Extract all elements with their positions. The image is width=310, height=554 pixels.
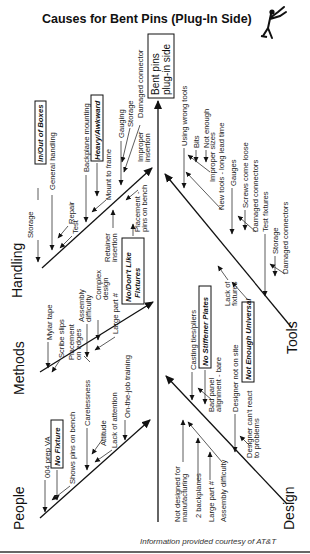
cause-storage: Storage xyxy=(26,211,35,238)
branch-tools: Tools Using wrong tools Bits Not enough … xyxy=(165,85,300,382)
cause-test-fixtures: Test fixtures xyxy=(261,191,270,232)
cause-damaged-connector: Damaged connector xyxy=(136,49,145,118)
cause-design: design xyxy=(101,278,110,300)
cause-improper-sizes: Improper sizes xyxy=(208,132,217,182)
cause-lack-of-attention: Lack of attention xyxy=(110,392,119,448)
category-design: Design xyxy=(281,486,297,530)
cause-scribe-slips: Scribe slips xyxy=(57,319,66,358)
boxed-fixtures: Fixtures xyxy=(133,267,142,298)
branch-design: Design Casting ties/pliers No Stiffener … xyxy=(166,286,297,530)
cause-using-wrong-tools: Using wrong tools xyxy=(180,85,189,146)
cause-gauging: Gauging xyxy=(117,109,126,138)
boxed-no-fixture: No Fixture xyxy=(53,427,62,466)
cause-bits: Bits xyxy=(192,135,201,148)
cause-damaged-connectors-2: Damaged connectors xyxy=(281,202,290,274)
cause-insertion: insertion xyxy=(143,133,152,162)
effect-box: Bent pins plug-in side xyxy=(148,34,174,98)
cause-to-problems: to problems xyxy=(252,418,261,458)
cause-storage-tools: Storage xyxy=(271,227,280,254)
cause-designer-not-on-site: Designer not on site xyxy=(231,344,240,412)
cause-shows-pins-on-bench: Shows pins on bench xyxy=(68,412,77,484)
boxed-in-out-of-boxes: In/Out of Boxes xyxy=(36,104,45,162)
running-figure-logo-icon xyxy=(261,7,286,38)
cause-damaged-connectors: Damaged connectors xyxy=(251,160,260,232)
boxed-heavy-awkward: Heavy/Awkward xyxy=(93,100,102,160)
diagram-title: Causes for Bent Pins (Plug-In Side) xyxy=(42,12,252,26)
cause-retainer-insertion: insertion xyxy=(110,233,119,262)
cause-test: Test xyxy=(71,219,80,234)
cause-difficulty: difficulty xyxy=(84,295,93,322)
cause-on-edges: on edges xyxy=(74,329,83,360)
boxed-no-dont-like: No/Don't Like xyxy=(124,251,133,302)
cause-manufacturing: manufacturing xyxy=(180,474,189,522)
cause-on-the-job-training: On-the-job training xyxy=(123,355,132,418)
effect-line-2: plug-in side xyxy=(161,43,172,95)
category-tools: Tools xyxy=(284,321,300,354)
cause-alignment-bare: alignment - bare xyxy=(214,357,223,412)
branch-people: People 004 prep VA No Fixture Shows pins… xyxy=(11,355,150,530)
cause-casting-ties-pliers: Casting ties/pliers xyxy=(189,310,198,370)
cause-2-backplanes: 2 backplanes xyxy=(194,473,203,518)
cause-backplane-mounting: Backplane mounting xyxy=(82,103,91,172)
cause-screws-come-loose: Screws come loose xyxy=(241,142,250,208)
cause-mylar-tape: Mylar tape xyxy=(45,305,54,340)
category-handling: Handling xyxy=(9,243,25,298)
cause-storage-2: Storage xyxy=(126,100,135,127)
effect-line-1: Bent pins xyxy=(150,53,161,95)
cause-pins-on-bench: pins on bench xyxy=(140,185,149,232)
fishbone-diagram: Causes for Bent Pins (Plug-In Side) Bent… xyxy=(0,0,310,554)
boxed-no-stiffener-plates: No Stiffener Plates xyxy=(201,296,210,366)
cause-large-part: Large part # xyxy=(111,292,120,334)
branch-handling: Handling Storage In/Out of Boxes General… xyxy=(9,49,152,304)
credit-text: Information provided courtesy of AT&T xyxy=(140,537,277,546)
cause-assembly-difficulty-design: Assembly difficulty xyxy=(219,459,228,522)
boxed-not-enough-universal: Not Enough Universal xyxy=(244,298,253,380)
category-people: People xyxy=(11,486,27,530)
cause-large-part-design: Large part # xyxy=(207,480,216,522)
category-methods: Methods xyxy=(11,341,27,395)
cause-mount-to-frame: Mount to frame xyxy=(104,149,113,200)
cause-gauges: Gauges xyxy=(229,159,238,186)
diagram-canvas: Causes for Bent Pins (Plug-In Side) Bent… xyxy=(0,0,310,554)
cause-general-handling: General handling xyxy=(48,132,57,190)
cause-carelessness: Carelessness xyxy=(83,380,92,426)
cause-new-tools: New tools - long lead time xyxy=(217,123,226,210)
